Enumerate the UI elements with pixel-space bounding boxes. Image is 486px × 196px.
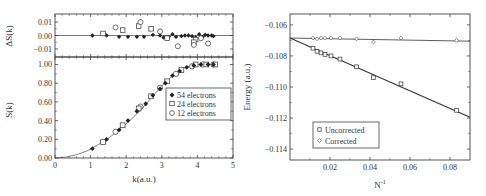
- x-tick-label: 0.08: [443, 163, 457, 172]
- open-square-marker: [311, 46, 315, 50]
- open-square-icon: [318, 128, 321, 131]
- open-square-marker: [315, 49, 319, 53]
- open-square-marker: [319, 51, 323, 55]
- open-circle-marker: [175, 44, 180, 49]
- x-tick-label: 4: [195, 161, 199, 170]
- open-square-marker: [101, 31, 106, 36]
- open-circle-marker: [138, 20, 143, 25]
- open-diamond-marker: [372, 40, 376, 44]
- y-tick-label: 0.80: [38, 79, 52, 88]
- legend-item-corrected: Corrected: [325, 137, 357, 146]
- open-square-marker: [101, 140, 106, 145]
- open-square-marker: [323, 52, 327, 56]
- legend-item-54: 54 electrons: [177, 91, 216, 100]
- open-square-marker: [355, 65, 359, 69]
- filled-diamond-marker: [90, 33, 94, 37]
- open-square-icon: [170, 101, 174, 105]
- filled-diamond-marker: [151, 33, 155, 37]
- open-square-marker: [165, 36, 170, 41]
- y-tick-label: 0.60: [38, 98, 52, 107]
- delta-s-axis-label: ΔS(k): [4, 25, 14, 46]
- open-diamond-marker: [355, 37, 359, 41]
- legend-item-24: 24 electrons: [177, 100, 216, 109]
- open-circle-marker: [206, 41, 211, 46]
- open-diamond-marker: [323, 36, 327, 40]
- open-diamond-marker: [399, 36, 403, 40]
- open-square-marker: [329, 54, 333, 58]
- y-tick-label: −0.114: [265, 145, 287, 154]
- x-tick-label: 0.02: [323, 163, 337, 172]
- open-circle-marker: [198, 36, 203, 41]
- x-tick-label: 0.06: [403, 163, 417, 172]
- x-tick-label: 2: [124, 161, 128, 170]
- x-tick-label: 1: [89, 161, 93, 170]
- y-tick-label: −0.01: [33, 45, 52, 54]
- y-tick-label: 0.40: [38, 117, 52, 126]
- open-circle-marker: [113, 25, 118, 30]
- y-tick-label: −0.112: [265, 114, 287, 123]
- filled-diamond-marker: [179, 34, 183, 38]
- inverse-n-exponent: -1: [381, 179, 386, 185]
- y-tick-label: 1.00: [38, 60, 52, 69]
- x-tick-label: 0.04: [363, 163, 377, 172]
- filled-diamond-marker: [184, 65, 189, 70]
- open-square-marker: [372, 76, 376, 80]
- k-axis-label: k(a.u.): [132, 174, 156, 184]
- y-tick-label: −0.106: [264, 21, 287, 30]
- y-tick-label: −0.110: [265, 83, 287, 92]
- y-tick-label: 0.00: [38, 32, 52, 41]
- legend-item-uncorrected: Uncorrected: [325, 126, 365, 135]
- open-diamond-marker: [338, 36, 342, 40]
- energy-axis-label: Energy (a.u.): [242, 63, 252, 110]
- open-square-marker: [120, 123, 125, 128]
- open-square-marker: [399, 82, 403, 86]
- inverse-n-axis-label: N-1: [374, 179, 386, 190]
- open-circle-marker: [157, 29, 162, 34]
- open-diamond-marker: [455, 39, 459, 43]
- open-square-marker: [120, 28, 125, 33]
- s-k-axis-label: S(k): [4, 102, 14, 118]
- open-diamond-marker: [315, 37, 319, 41]
- y-tick-label: 0.00: [38, 154, 52, 163]
- y-tick-label: 0.01: [38, 18, 52, 27]
- x-tick-label: 5: [231, 161, 235, 170]
- filled-diamond-marker: [126, 118, 131, 123]
- open-square-marker: [338, 57, 342, 61]
- legend-item-12: 12 electrons: [177, 109, 216, 118]
- x-tick-label: 3: [160, 161, 164, 170]
- open-square-marker: [149, 26, 154, 31]
- delta-s-panel: 0.010.00−0.01: [33, 14, 233, 57]
- x-tick-label: 0: [53, 161, 57, 170]
- open-circle-marker: [191, 42, 196, 47]
- legend-right: Uncorrected Corrected: [313, 122, 379, 148]
- filled-diamond-marker: [186, 33, 190, 37]
- y-tick-label: −0.108: [264, 52, 287, 61]
- y-tick-label: 0.20: [38, 135, 52, 144]
- figure: 0.010.00−0.01 0.000.200.400.600.801.0001…: [0, 0, 486, 196]
- legend-left: 54 electrons 24 electrons 12 electrons: [166, 88, 231, 120]
- open-diamond-marker: [311, 36, 315, 40]
- open-square-marker: [455, 108, 459, 112]
- open-circle-icon: [170, 111, 175, 116]
- open-diamond-marker: [319, 36, 323, 40]
- open-diamond-marker: [329, 36, 333, 40]
